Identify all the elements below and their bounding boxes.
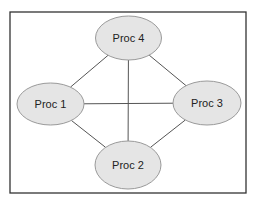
node-proc-4: Proc 4 — [96, 16, 162, 60]
edge-p1-p3 — [84, 103, 173, 104]
edge-p4-p1 — [70, 55, 108, 87]
node-proc-2: Proc 2 — [95, 141, 161, 189]
edge-p4-p3 — [149, 55, 186, 86]
node-label: Proc 1 — [35, 98, 67, 110]
process-graph-diagram: Proc 4Proc 1Proc 3Proc 2 — [0, 0, 253, 202]
node-label: Proc 3 — [191, 97, 223, 109]
node-label: Proc 4 — [113, 32, 145, 44]
node-proc-3: Proc 3 — [173, 81, 241, 125]
edge-p3-p2 — [150, 120, 185, 147]
node-proc-1: Proc 1 — [17, 83, 84, 125]
edges — [70, 55, 186, 147]
node-label: Proc 2 — [112, 159, 144, 171]
edge-p1-p2 — [71, 120, 105, 147]
nodes: Proc 4Proc 1Proc 3Proc 2 — [17, 16, 241, 189]
